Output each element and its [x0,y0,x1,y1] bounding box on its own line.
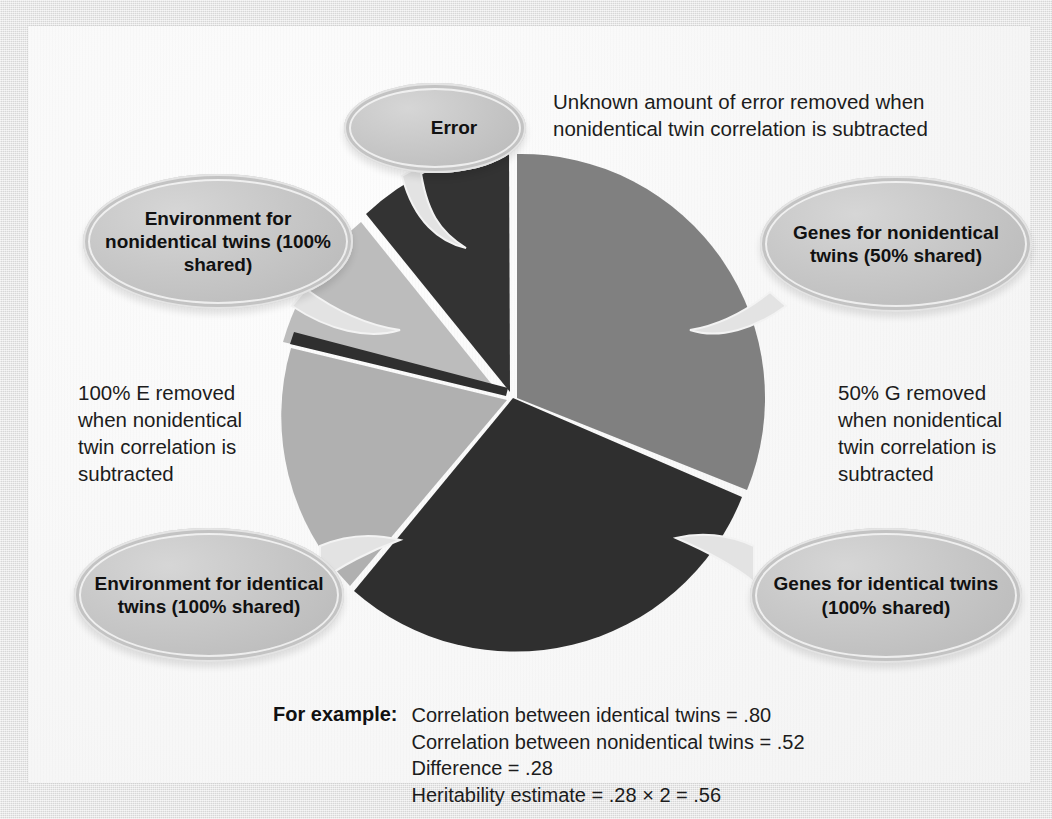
callout-error[interactable]: Error [344,83,526,173]
callout-error-label: Error [383,116,487,139]
note-right: 50% G removed when nonidentical twin cor… [838,379,1052,487]
callout-environment-identical[interactable]: Environment for identical twins (100% sh… [74,528,344,662]
example-line: Correlation between identical twins = .8… [411,702,804,729]
example-block: For example: Correlation between identic… [273,702,805,808]
example-lines: Correlation between identical twins = .8… [411,702,804,808]
figure-panel: Error Environment for nonidentical twins… [28,26,1030,783]
callout-genes-identical[interactable]: Genes for identical twins (100% shared) [750,528,1022,663]
example-line: Correlation between nonidentical twins =… [411,729,804,756]
figure-root: Error Environment for nonidentical twins… [0,0,1052,819]
figure-canvas: Error Environment for nonidentical twins… [28,26,1030,783]
note-left: 100% E removed when nonidentical twin co… [78,379,328,487]
example-label: For example: [273,702,397,726]
callout-genes-nonidentical[interactable]: Genes for nonidentical twins (50% shared… [760,176,1032,312]
callout-genes-identical-label: Genes for identical twins (100% shared) [750,572,1022,618]
example-line: Difference = .28 [411,755,804,782]
example-line: Heritability estimate = .28 × 2 = .56 [411,782,804,809]
note-top: Unknown amount of error removed when non… [553,88,1023,142]
callout-genes-nonidentical-label: Genes for nonidentical twins (50% shared… [760,221,1032,267]
callout-environment-nonidentical-label: Environment for nonidentical twins (100%… [83,207,353,277]
callout-environment-identical-label: Environment for identical twins (100% sh… [74,572,344,618]
callout-environment-nonidentical[interactable]: Environment for nonidentical twins (100%… [83,174,353,309]
